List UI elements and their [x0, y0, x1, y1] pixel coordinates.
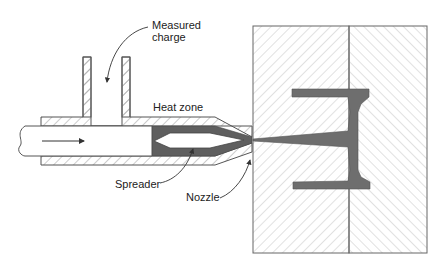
label-heat-zone: Heat zone	[153, 101, 203, 113]
barrel-wall-top	[41, 57, 252, 137]
label-measured: Measured	[152, 19, 201, 31]
nozzle-leader	[220, 160, 250, 198]
plunger	[19, 126, 152, 156]
label-nozzle: Nozzle	[186, 191, 220, 203]
label-charge: charge	[152, 31, 201, 43]
label-spreader: Spreader	[115, 178, 160, 190]
break-line	[19, 126, 25, 156]
injection-molding-diagram	[0, 0, 441, 266]
label-measured-charge: Measured charge	[152, 19, 201, 43]
mold-right-half	[349, 26, 427, 253]
